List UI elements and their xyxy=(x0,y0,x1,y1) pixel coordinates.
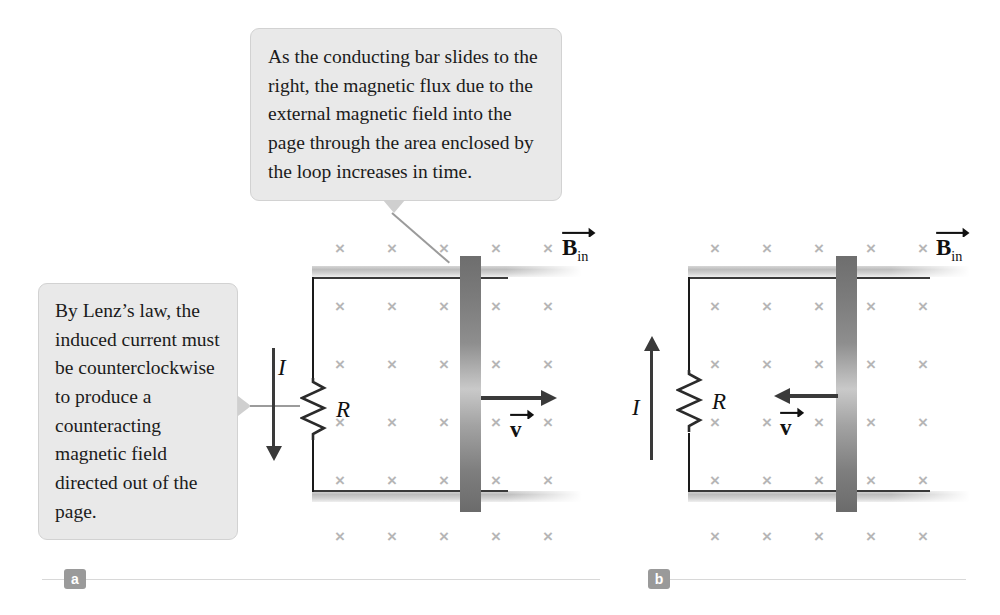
panel-b: × × × × × × × × × × × × × × × × × × × × … xyxy=(640,228,970,548)
velocity-arrow-shaft xyxy=(481,396,543,400)
field-mark: × xyxy=(543,298,553,315)
field-mark: × xyxy=(762,472,772,489)
panel-a-tag: a xyxy=(64,569,86,589)
field-mark: × xyxy=(335,240,345,257)
field-mark: × xyxy=(710,472,720,489)
left-wire-lower xyxy=(688,433,690,492)
conducting-bar[interactable] xyxy=(460,256,481,512)
field-mark: × xyxy=(335,528,345,545)
field-mark: × xyxy=(814,414,824,431)
magnetic-field-symbol: B xyxy=(562,235,577,260)
field-mark: × xyxy=(387,528,397,545)
magnetic-field-subscript: in xyxy=(577,248,588,264)
field-mark: × xyxy=(866,240,876,257)
field-mark: × xyxy=(439,528,449,545)
field-mark: × xyxy=(387,356,397,373)
callout-flux-explanation: As the conducting bar slides to the righ… xyxy=(250,28,562,201)
panel-a: × × × × × × × × × × × × × × × × × × × × … xyxy=(300,228,620,548)
bottom-rail-inner-line xyxy=(688,490,930,492)
field-mark: × xyxy=(491,528,501,545)
current-arrow-head xyxy=(644,336,660,351)
top-rail xyxy=(688,266,970,277)
resistor-label: R xyxy=(336,398,350,421)
resistor-symbol xyxy=(676,370,706,432)
field-mark: × xyxy=(387,472,397,489)
field-mark: × xyxy=(918,472,928,489)
current-arrow-shaft xyxy=(272,348,275,448)
field-mark: × xyxy=(387,414,397,431)
left-wire-upper xyxy=(688,277,690,373)
field-mark: × xyxy=(762,356,772,373)
magnetic-field-subscript: in xyxy=(951,248,962,264)
conducting-bar[interactable] xyxy=(836,256,857,512)
current-label: I xyxy=(632,396,640,419)
current-label: I xyxy=(278,356,286,379)
field-mark: × xyxy=(814,240,824,257)
velocity-arrow-head xyxy=(541,390,557,406)
field-mark: × xyxy=(814,472,824,489)
field-mark: × xyxy=(543,414,553,431)
field-mark: × xyxy=(543,356,553,373)
callout-lenz-law-explanation: By Lenz’s law, the induced current must … xyxy=(38,283,238,540)
velocity-label: v xyxy=(780,416,792,439)
field-mark: × xyxy=(918,528,928,545)
magnetic-field-label: Bin xyxy=(562,236,588,263)
top-rail xyxy=(312,266,582,277)
field-mark: × xyxy=(439,298,449,315)
figure-canvas: As the conducting bar slides to the righ… xyxy=(0,0,1000,615)
left-wire-lower xyxy=(312,436,314,492)
field-mark: × xyxy=(491,356,501,373)
field-mark: × xyxy=(387,298,397,315)
bottom-rail xyxy=(312,491,582,502)
velocity-arrow-head xyxy=(774,388,790,404)
field-mark: × xyxy=(814,298,824,315)
current-arrow-shaft xyxy=(650,350,653,460)
field-mark: × xyxy=(491,472,501,489)
field-mark: × xyxy=(439,240,449,257)
field-mark: × xyxy=(710,356,720,373)
field-mark: × xyxy=(918,240,928,257)
field-mark: × xyxy=(762,298,772,315)
velocity-arrow-shaft xyxy=(790,394,838,398)
velocity-symbol: v xyxy=(510,417,522,442)
callout-left-leader xyxy=(250,405,300,407)
bottom-rail xyxy=(688,491,970,502)
velocity-label: v xyxy=(510,418,522,441)
field-mark: × xyxy=(543,240,553,257)
velocity-symbol: v xyxy=(780,415,792,440)
field-mark: × xyxy=(543,528,553,545)
field-mark: × xyxy=(491,240,501,257)
field-mark: × xyxy=(335,356,345,373)
panel-b-rule xyxy=(648,579,966,580)
resistor-symbol xyxy=(300,378,330,440)
field-mark: × xyxy=(866,414,876,431)
field-mark: × xyxy=(335,298,345,315)
field-mark: × xyxy=(762,528,772,545)
left-wire-upper xyxy=(312,277,314,382)
field-mark: × xyxy=(710,414,720,431)
field-mark: × xyxy=(439,472,449,489)
current-arrow-head xyxy=(266,446,282,461)
field-mark: × xyxy=(866,472,876,489)
field-mark: × xyxy=(866,528,876,545)
callout-top-tail xyxy=(383,200,405,213)
field-mark: × xyxy=(918,414,928,431)
panel-b-tag: b xyxy=(648,569,670,589)
field-mark: × xyxy=(918,356,928,373)
magnetic-field-label: Bin xyxy=(936,236,962,263)
field-mark: × xyxy=(814,528,824,545)
field-mark: × xyxy=(866,356,876,373)
field-mark: × xyxy=(491,414,501,431)
field-mark: × xyxy=(762,240,772,257)
resistor-label: R xyxy=(712,390,726,413)
field-mark: × xyxy=(491,298,501,315)
field-mark: × xyxy=(710,528,720,545)
top-rail-inner-line xyxy=(688,277,930,279)
magnetic-field-symbol: B xyxy=(936,235,951,260)
field-mark: × xyxy=(762,414,772,431)
field-mark: × xyxy=(335,472,345,489)
field-mark: × xyxy=(918,298,928,315)
field-mark: × xyxy=(710,298,720,315)
panel-a-rule xyxy=(42,579,600,580)
field-mark: × xyxy=(866,298,876,315)
